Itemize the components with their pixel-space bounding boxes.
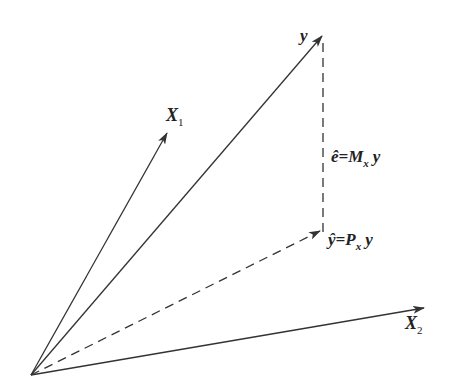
vector-x2 bbox=[31, 308, 424, 375]
vector-y bbox=[31, 36, 322, 375]
label-y-hat: ŷ=Pxy bbox=[326, 230, 373, 252]
label-x1: X1 bbox=[165, 105, 184, 128]
vector-y-hat bbox=[31, 231, 320, 375]
vector-x1 bbox=[31, 133, 167, 375]
label-e-hat: ê=Mxy bbox=[331, 147, 381, 169]
label-y: y bbox=[298, 26, 308, 45]
label-x2: X2 bbox=[404, 313, 423, 336]
projection-diagram: y X1 ê=Mxy ŷ=Pxy X2 bbox=[0, 0, 450, 389]
